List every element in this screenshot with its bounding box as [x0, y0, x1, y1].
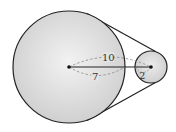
large-circle-center-point [67, 65, 71, 69]
label-small-radius: 2 [139, 70, 145, 81]
belt-pulley-diagram: 10 7 2 [0, 0, 176, 132]
label-center-distance: 10 [102, 52, 115, 63]
label-big-radius: 7 [92, 71, 98, 82]
small-circle-center-point [149, 65, 153, 69]
